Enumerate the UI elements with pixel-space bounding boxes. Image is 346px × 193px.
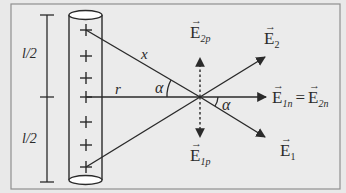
vector-E2p-label: E2p xyxy=(190,24,210,44)
cylinder-top-cap xyxy=(69,11,102,20)
slant-distance-label: x xyxy=(141,47,148,62)
vector-E1p-label: E1p xyxy=(190,147,210,167)
perpendicular-distance-label: r xyxy=(115,82,121,97)
angle-alpha-left-label: α xyxy=(155,80,163,96)
upper-half-length-label: l/2 xyxy=(22,47,37,61)
vector-E2-label: E2 xyxy=(264,30,279,50)
cylinder-bottom-cap xyxy=(69,176,102,185)
field-equality-equation: E1n=E2n xyxy=(272,89,328,109)
angle-alpha-right-label: α xyxy=(222,97,230,113)
lower-half-length-label: l/2 xyxy=(22,132,37,146)
vector-E1-label: E1 xyxy=(280,142,295,162)
